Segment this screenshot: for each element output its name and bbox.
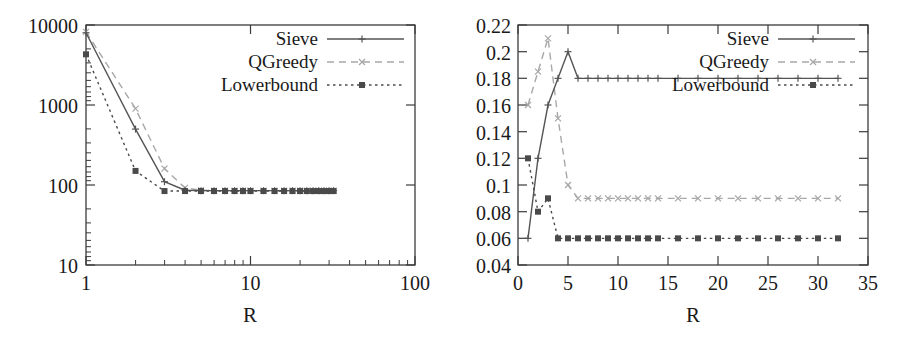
data-point-marker [545, 195, 551, 201]
data-point-marker [585, 235, 591, 241]
data-point-marker [575, 235, 581, 241]
data-point-marker [695, 235, 701, 241]
data-point-marker [272, 188, 278, 194]
left-xaxis-title: R [243, 303, 257, 327]
data-point-marker [645, 235, 651, 241]
data-point-marker [735, 235, 741, 241]
left-y-minor-ticks [86, 49, 91, 261]
left-legend-marker-sieve [359, 36, 366, 43]
right-ytick-label-012: 0.12 [476, 148, 511, 170]
left-legend: Sieve QGreedy Lowerbound [221, 28, 404, 95]
left-legend-label-qgreedy: QGreedy [248, 51, 318, 72]
right-y-ticks [518, 25, 868, 265]
right-x-ticks [518, 25, 868, 265]
right-xtick-label-10: 10 [608, 272, 628, 294]
right-legend: Sieve QGreedy Lowerbound [672, 28, 855, 95]
right-xtick-label-30: 30 [808, 272, 828, 294]
data-point-marker [281, 188, 287, 194]
right-legend-label-lowerbound: Lowerbound [672, 74, 770, 95]
right-ytick-label-016: 0.16 [476, 95, 511, 117]
left-xtick-label-100: 100 [400, 272, 430, 294]
right-ytick-label-018: 0.18 [476, 68, 511, 90]
left-xtick-label-1: 1 [81, 272, 91, 294]
data-point-marker [775, 235, 781, 241]
data-point-marker [83, 51, 89, 57]
right-xtick-label-5: 5 [563, 272, 573, 294]
data-point-marker [625, 235, 631, 241]
data-point-marker [316, 188, 322, 194]
right-legend-label-sieve: Sieve [727, 28, 769, 49]
right-ytick-label-008: 0.08 [476, 202, 511, 224]
right-ytick-label-014: 0.14 [476, 122, 511, 144]
right-xtick-label-20: 20 [708, 272, 728, 294]
right-series-qgreedy [525, 35, 841, 201]
chart-panel-right: 0.22 0.2 0.18 0.16 0.14 0.12 0.1 0.08 0.… [449, 0, 898, 341]
right-legend-marker-sieve [810, 36, 817, 43]
data-point-marker [297, 188, 303, 194]
data-point-marker [525, 155, 531, 161]
data-point-marker [535, 209, 541, 215]
data-point-marker [675, 235, 681, 241]
left-ytick-label-10000: 10000 [28, 15, 78, 37]
data-point-marker [304, 188, 310, 194]
data-point-marker [182, 188, 188, 194]
data-point-marker [161, 188, 167, 194]
right-xaxis-title: R [686, 303, 700, 327]
data-point-marker [211, 188, 217, 194]
right-xtick-label-15: 15 [658, 272, 678, 294]
data-point-marker [555, 235, 561, 241]
left-xtick-label-10: 10 [241, 272, 261, 294]
left-ytick-label-10: 10 [58, 255, 78, 277]
right-xtick-label-25: 25 [758, 272, 778, 294]
data-point-marker [795, 235, 801, 241]
right-plot-frame [518, 25, 868, 265]
right-xtick-label-0: 0 [513, 272, 523, 294]
right-ytick-label-006: 0.06 [476, 228, 511, 250]
data-point-marker [835, 235, 841, 241]
left-chart-svg: 10000 1000 100 10 1 10 100 R Sieve [0, 0, 449, 341]
left-series-lowerbound [83, 51, 337, 194]
data-point-marker [755, 235, 761, 241]
right-ytick-label-022: 0.22 [476, 15, 511, 37]
right-legend-label-qgreedy: QGreedy [699, 51, 769, 72]
right-ytick-label-02: 0.2 [486, 42, 511, 64]
right-ytick-label-01: 0.1 [486, 175, 511, 197]
data-point-marker [289, 188, 295, 194]
data-point-marker [595, 235, 601, 241]
data-point-marker [565, 235, 571, 241]
data-point-marker [133, 168, 139, 174]
left-ytick-label-1000: 1000 [38, 95, 78, 117]
data-point-marker [248, 188, 254, 194]
left-legend-label-sieve: Sieve [276, 28, 318, 49]
data-point-marker [198, 188, 204, 194]
data-point-marker [240, 188, 246, 194]
data-point-marker [655, 235, 661, 241]
data-point-marker [635, 235, 641, 241]
left-x-minor-ticks [136, 260, 408, 265]
figure-two-panel-chart: 10000 1000 100 10 1 10 100 R Sieve [0, 0, 898, 341]
right-chart-svg: 0.22 0.2 0.18 0.16 0.14 0.12 0.1 0.08 0.… [449, 0, 898, 341]
data-point-marker [715, 235, 721, 241]
data-point-marker [310, 188, 316, 194]
data-point-marker [605, 235, 611, 241]
left-ytick-label-100: 100 [48, 175, 78, 197]
right-ytick-label-004: 0.04 [476, 255, 511, 277]
data-point-marker [331, 188, 337, 194]
data-point-marker [815, 235, 821, 241]
data-point-marker [222, 188, 228, 194]
left-legend-label-lowerbound: Lowerbound [221, 74, 319, 95]
data-point-marker [615, 235, 621, 241]
right-legend-marker-lowerbound [810, 82, 816, 88]
data-point-marker [261, 188, 267, 194]
chart-panel-left: 10000 1000 100 10 1 10 100 R Sieve [0, 0, 449, 341]
data-point-marker [232, 188, 238, 194]
left-legend-marker-lowerbound [359, 82, 365, 88]
right-xtick-label-35: 35 [858, 272, 878, 294]
